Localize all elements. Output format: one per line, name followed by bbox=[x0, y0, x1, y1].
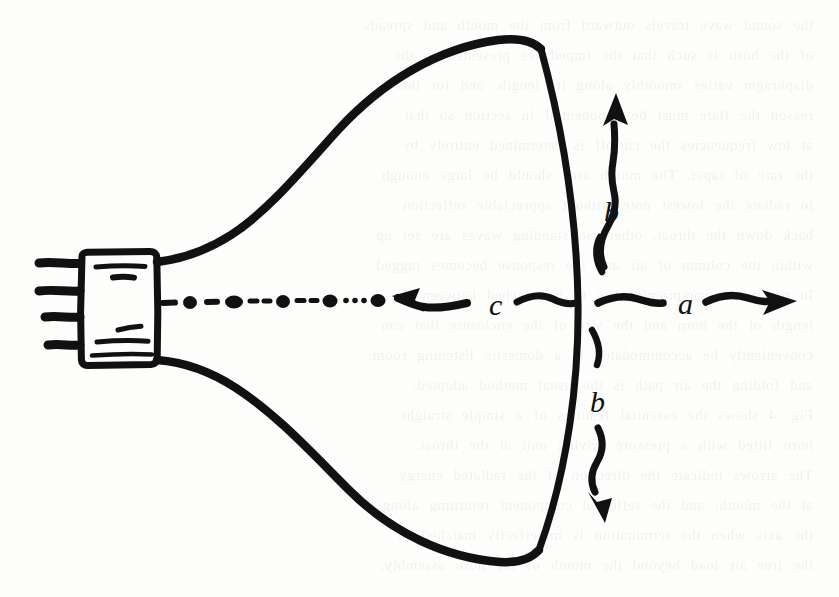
driver-inner-tick-lower bbox=[118, 326, 141, 330]
label-b-upper: b bbox=[604, 195, 619, 228]
axis-dot-5 bbox=[371, 294, 386, 307]
axis-line bbox=[163, 294, 386, 309]
arrow-a-shaft-left bbox=[598, 297, 663, 303]
terminal-pin-3 bbox=[45, 317, 80, 318]
arrow-b-lower-shaft bbox=[592, 428, 602, 492]
figure-root: the sound wave travels outward from the … bbox=[0, 0, 839, 597]
arrow-b-lower-tail bbox=[592, 330, 599, 365]
arrow-b-upper-up: b bbox=[600, 93, 628, 267]
axis-dash-5b bbox=[352, 298, 358, 304]
label-b-lower: b bbox=[590, 385, 605, 418]
axis-dash-5c bbox=[361, 298, 367, 304]
label-a: a bbox=[678, 287, 693, 320]
arrow-b-lower-down: b bbox=[588, 330, 612, 523]
driver-body-outline bbox=[81, 252, 158, 366]
arrow-b-lower-head bbox=[588, 492, 612, 523]
arrow-c-tail-wave bbox=[517, 296, 576, 304]
diagram-ink-layer: c a b b bbox=[0, 0, 839, 597]
arrow-a-shaft-right bbox=[706, 296, 770, 302]
axis-dash-1 bbox=[163, 303, 175, 304]
arrow-a-right: a bbox=[598, 287, 797, 320]
driver-inner-tick-upper bbox=[113, 277, 134, 278]
driver-body bbox=[81, 252, 158, 366]
terminal-pin-2 bbox=[39, 290, 80, 291]
axis-dot-3 bbox=[276, 295, 290, 308]
axis-dot-4 bbox=[323, 295, 338, 308]
axis-dash-5a bbox=[343, 298, 349, 304]
driver-terminals bbox=[39, 263, 80, 346]
horn-lower-wall bbox=[157, 360, 539, 562]
driver-inner-stroke-bottom bbox=[97, 341, 148, 342]
axis-dot-1 bbox=[183, 296, 197, 309]
terminal-pin-4 bbox=[48, 345, 80, 346]
horn-upper-wall bbox=[157, 39, 541, 262]
label-c: c bbox=[489, 288, 502, 321]
driver-inner-stroke-top bbox=[96, 266, 145, 267]
driver-inner-stroke-base bbox=[92, 354, 152, 356]
terminal-pin-1 bbox=[39, 263, 80, 264]
axis-dot-2 bbox=[225, 296, 243, 309]
arrow-c-tail bbox=[517, 296, 576, 304]
arrow-c-left bbox=[392, 288, 467, 312]
